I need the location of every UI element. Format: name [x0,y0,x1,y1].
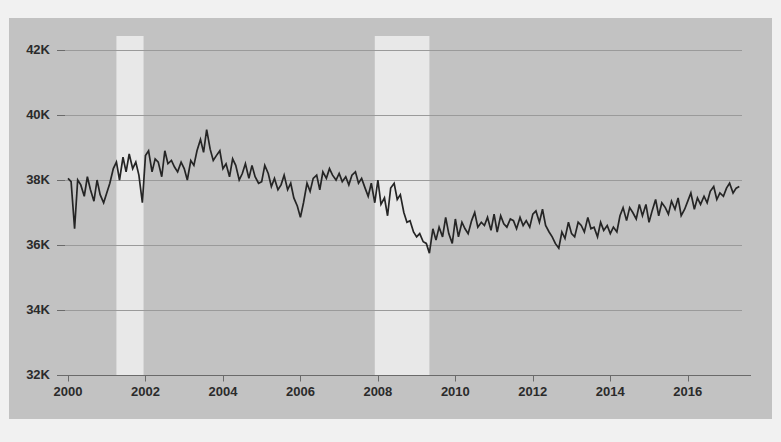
x-tick-label-2008: 2008 [353,384,403,399]
x-tick-label-2002: 2002 [120,384,170,399]
x-tick-label-2012: 2012 [508,384,558,399]
tickmarks-group [57,51,689,382]
x-tick-label-2014: 2014 [585,384,635,399]
y-tick-label-32K: 32K [8,367,50,382]
x-tick-label-2000: 2000 [43,384,93,399]
y-tick-label-42K: 42K [8,42,50,57]
y-tick-label-36K: 36K [8,237,50,252]
y-tick-label-40K: 40K [8,107,50,122]
chart-screenshot: 42K40K38K36K34K32K 200020022004200620082… [0,0,781,442]
x-tick-label-2016: 2016 [663,384,713,399]
x-tick-label-2010: 2010 [430,384,480,399]
recession-band-2001 [116,36,143,375]
chart-svg [9,18,772,419]
y-tick-label-38K: 38K [8,172,50,187]
recession-bands-group [116,36,429,375]
y-tick-label-34K: 34K [8,302,50,317]
x-tick-label-2004: 2004 [198,384,248,399]
chart-plot-panel [9,18,772,419]
x-tick-label-2006: 2006 [275,384,325,399]
